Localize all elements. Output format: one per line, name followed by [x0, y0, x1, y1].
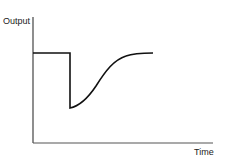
x-axis-label: Time	[194, 147, 214, 157]
output-curve	[33, 53, 153, 108]
diagram-canvas: Output Time	[0, 0, 230, 159]
y-axis-label: Output	[3, 16, 31, 26]
